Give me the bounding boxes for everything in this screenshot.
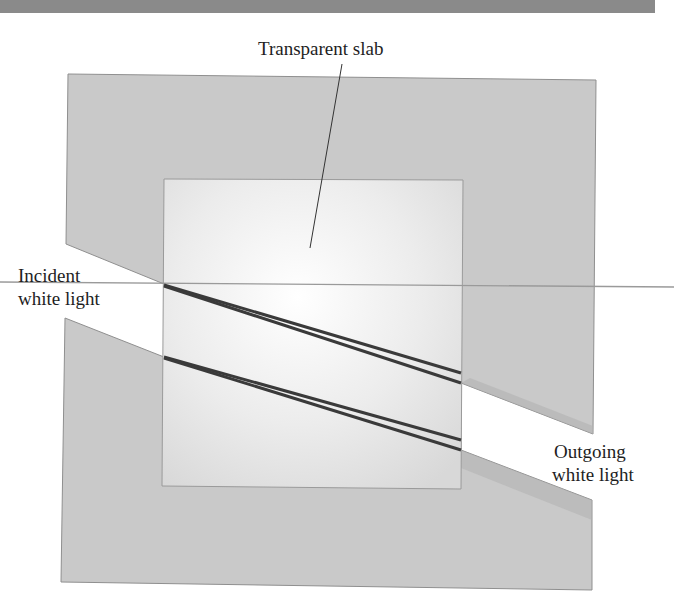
label-line-2: white light [18,287,100,310]
label-line-2: white light [552,463,634,486]
diagram-canvas [0,0,674,606]
label-incident-light: Incident white light [18,264,100,310]
top-bar [0,0,655,13]
label-transparent-slab: Transparent slab [258,37,383,60]
label-line-1: Outgoing [552,440,634,463]
label-line-1: Incident [18,264,100,287]
label-text: Transparent slab [258,37,383,60]
refraction-diagram: Transparent slab Incident white light Ou… [0,0,674,606]
label-outgoing-light: Outgoing white light [552,440,634,486]
